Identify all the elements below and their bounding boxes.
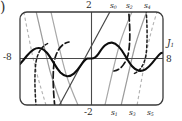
curve-label-sub: 1 [171,42,175,48]
label-s0-sub: 0 [114,5,117,10]
label-s3: s3 [129,109,136,117]
label-s1: s1 [111,109,118,117]
label-s3-sub: 3 [133,112,136,117]
x-right-label: 8 [166,55,172,64]
label-s0: s0 [110,2,117,10]
bessel-partial-sums-figure [0,0,182,121]
x-left-label: -8 [3,53,12,62]
label-s1-sub: 1 [115,112,118,117]
y-top-label: 2 [86,1,92,10]
label-s5-sub: 5 [151,112,154,117]
curve-label-j1: J1 [167,39,174,49]
paren-fragment: ) [0,0,5,15]
label-s2: s2 [126,2,133,10]
y-bottom-label: -2 [84,108,93,117]
label-s4: s4 [144,2,151,10]
label-s2-sub: 2 [130,5,133,10]
label-s5: s5 [147,109,154,117]
label-s4-sub: 4 [148,5,151,10]
